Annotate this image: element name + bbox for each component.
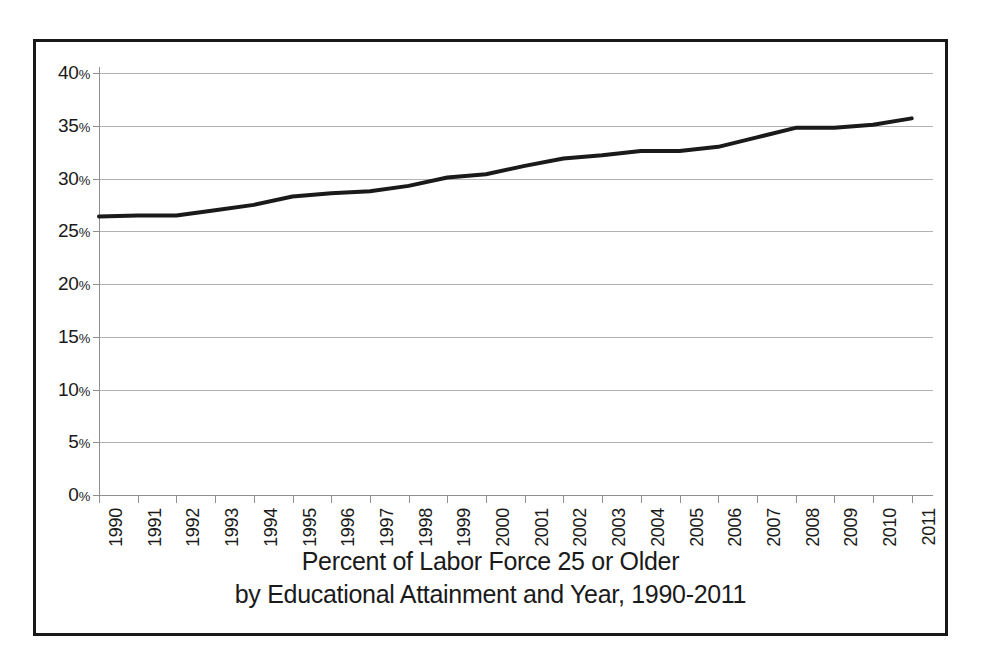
x-tick-mark-2001 <box>525 495 526 503</box>
x-tick-label-2007: 2007 <box>764 508 785 547</box>
chart-caption: Percent of Labor Force 25 or Older by Ed… <box>36 545 945 611</box>
x-tick-label-1998: 1998 <box>416 508 437 547</box>
x-tick-label-2000: 2000 <box>493 508 514 547</box>
y-tick-label-10: 10% <box>58 379 90 401</box>
x-tick-label-2010: 2010 <box>880 508 901 547</box>
y-tick-label-20: 20% <box>58 273 90 295</box>
x-tick-label-1992: 1992 <box>183 508 204 547</box>
y-tick-label-15: 15% <box>58 326 90 348</box>
x-tick-mark-2002 <box>563 495 564 503</box>
data-series-line <box>99 73 933 495</box>
x-tick-label-1991: 1991 <box>145 508 166 547</box>
x-tick-label-1999: 1999 <box>454 508 475 547</box>
x-tick-label-1995: 1995 <box>300 508 321 547</box>
x-tick-label-2006: 2006 <box>725 508 746 547</box>
y-tick-label-0: 0% <box>68 484 90 506</box>
y-tick-label-25: 25% <box>58 220 90 242</box>
x-tick-mark-2008 <box>796 495 797 503</box>
x-tick-mark-1996 <box>331 495 332 503</box>
x-tick-mark-1998 <box>409 495 410 503</box>
x-tick-mark-1992 <box>176 495 177 503</box>
x-tick-mark-2005 <box>680 495 681 503</box>
x-tick-label-1996: 1996 <box>338 508 359 547</box>
x-tick-label-2011: 2011 <box>919 508 940 546</box>
x-tick-label-1990: 1990 <box>106 508 127 547</box>
x-tick-label-2005: 2005 <box>687 508 708 547</box>
caption-line-1: Percent of Labor Force 25 or Older <box>36 545 945 578</box>
x-tick-label-2002: 2002 <box>570 508 591 547</box>
x-tick-mark-2010 <box>873 495 874 503</box>
x-tick-mark-2000 <box>486 495 487 503</box>
x-tick-mark-1997 <box>370 495 371 503</box>
x-tick-mark-2011 <box>912 495 913 503</box>
x-tick-label-2003: 2003 <box>609 508 630 547</box>
x-tick-label-2008: 2008 <box>803 508 824 547</box>
y-tick-label-35: 35% <box>58 115 90 137</box>
x-tick-label-1994: 1994 <box>261 508 282 547</box>
x-tick-mark-2003 <box>602 495 603 503</box>
x-tick-mark-1999 <box>447 495 448 503</box>
x-tick-mark-2006 <box>718 495 719 503</box>
x-tick-mark-1994 <box>254 495 255 503</box>
x-tick-mark-1990 <box>99 495 100 503</box>
y-tick-label-30: 30% <box>58 168 90 190</box>
plot-area: 40%35%30%25%20%15%10%5%0% 19901991199219… <box>99 73 933 495</box>
x-tick-mark-2007 <box>757 495 758 503</box>
y-tick-label-40: 40% <box>58 62 90 84</box>
chart-figure-frame: 40%35%30%25%20%15%10%5%0% 19901991199219… <box>33 39 948 636</box>
x-tick-mark-2009 <box>834 495 835 503</box>
x-tick-mark-1993 <box>215 495 216 503</box>
y-tick-label-5: 5% <box>68 431 90 453</box>
x-tick-label-2004: 2004 <box>648 508 669 547</box>
x-tick-label-1993: 1993 <box>222 508 243 547</box>
x-tick-mark-2004 <box>641 495 642 503</box>
gridline-0 <box>99 495 933 496</box>
x-tick-mark-1995 <box>293 495 294 503</box>
x-tick-label-2009: 2009 <box>841 508 862 547</box>
x-tick-mark-1991 <box>138 495 139 503</box>
caption-line-2: by Educational Attainment and Year, 1990… <box>36 578 945 611</box>
x-tick-label-1997: 1997 <box>377 508 398 547</box>
x-tick-label-2001: 2001 <box>532 508 553 547</box>
